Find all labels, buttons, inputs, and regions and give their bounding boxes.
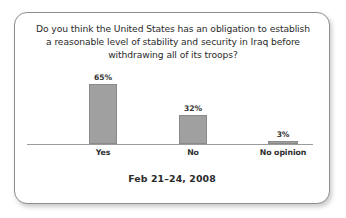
category-label-no-opinion: No opinion bbox=[241, 148, 325, 157]
bar-rect-no bbox=[179, 115, 207, 144]
bar-group-no-opinion: 3% No opinion bbox=[241, 65, 325, 144]
bar-rect-no-opinion bbox=[268, 141, 298, 144]
category-label-no: No bbox=[151, 148, 235, 157]
bar-stack-no: 32% bbox=[151, 65, 235, 144]
bar-chart-plot-area: 65% Yes 32% No 3% No opinion bbox=[27, 65, 319, 165]
bar-stack-no-opinion: 3% bbox=[241, 65, 325, 144]
question-line-3: withdrawing all of its troops? bbox=[25, 48, 321, 61]
poll-result-card: Do you think the United States has an ob… bbox=[14, 12, 330, 204]
category-label-yes: Yes bbox=[61, 148, 145, 157]
question-line-2: a reasonable level of stability and secu… bbox=[25, 35, 321, 48]
bar-group-no: 32% No bbox=[151, 65, 235, 144]
question-line-1: Do you think the United States has an ob… bbox=[25, 22, 321, 35]
bar-rect-yes bbox=[89, 84, 117, 144]
baseline-axis bbox=[27, 144, 313, 145]
bar-value-no: 32% bbox=[184, 104, 202, 113]
bar-value-no-opinion: 3% bbox=[277, 130, 290, 139]
date-caption: Feb 21–24, 2008 bbox=[15, 173, 329, 184]
question-title: Do you think the United States has an ob… bbox=[25, 22, 321, 62]
bar-stack-yes: 65% bbox=[61, 65, 145, 144]
bar-group-yes: 65% Yes bbox=[61, 65, 145, 144]
bar-value-yes: 65% bbox=[94, 73, 112, 82]
